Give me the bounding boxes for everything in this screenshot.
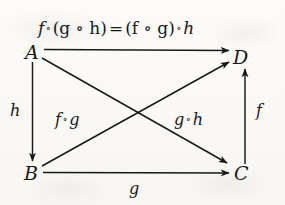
- vertex-a: A: [25, 43, 39, 62]
- edge-label-f: f: [256, 103, 262, 119]
- equation-rhs-fn: h: [183, 18, 194, 38]
- edge-label-g-comp-h: g∘h: [174, 112, 203, 128]
- vertex-d: D: [233, 48, 248, 67]
- equation-lhs-group: (g ∘ h): [53, 18, 107, 38]
- edge-label-g-comp-h-right: h: [193, 110, 203, 129]
- edge-label-f-comp-g-right: g: [69, 110, 79, 129]
- edge-b-to-c: [43, 173, 229, 174]
- diagram-canvas: f∘(g ∘ h)=(f ∘ g)∘h A D B C h g f f∘g g∘…: [0, 0, 285, 205]
- composition-operator-icon: ∘: [61, 113, 69, 126]
- composition-operator-icon: ∘: [44, 22, 52, 35]
- composition-operator-icon: ∘: [184, 113, 192, 126]
- edge-label-h: h: [10, 103, 20, 119]
- edge-label-f-comp-g: f∘g: [55, 112, 80, 128]
- equals-sign: =: [107, 18, 125, 38]
- edge-a-to-d: [44, 50, 229, 51]
- edge-label-g-comp-h-left: g: [174, 110, 184, 129]
- vertex-b: B: [24, 164, 38, 183]
- vertex-c: C: [234, 164, 249, 183]
- edge-label-g: g: [129, 181, 139, 197]
- equation-rhs-group: (f ∘ g): [125, 18, 175, 38]
- equation-label: f∘(g ∘ h)=(f ∘ g)∘h: [38, 20, 194, 37]
- composition-operator-icon: ∘: [175, 22, 183, 35]
